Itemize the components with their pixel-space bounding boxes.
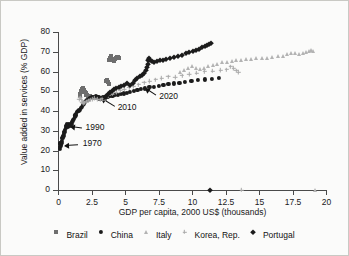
x-tick: 20 — [326, 191, 327, 195]
x-tick: 17.5 — [293, 191, 294, 195]
y-tick-label: 30 — [41, 125, 50, 136]
y-axis-label: Value added in services (% GDP) — [19, 32, 29, 172]
chart-figure: 01020304050607080 02.557.51012.51517.520… — [0, 0, 349, 256]
x-axis-label: GDP per capita, 2000 US$ (thousands) — [58, 207, 327, 217]
legend-item-italy[interactable]: Italy — [146, 230, 172, 240]
annotation-label-2010: 2010 — [118, 102, 137, 112]
legend-label: Brazil — [66, 230, 87, 240]
plus-marker-icon — [185, 232, 191, 238]
plot-area — [58, 32, 326, 190]
y-tick-label: 10 — [41, 164, 50, 175]
x-tick: 0 — [58, 191, 59, 195]
square-marker-icon — [56, 232, 62, 238]
legend-item-brazil[interactable]: Brazil — [56, 230, 87, 240]
legend-item-portugal[interactable]: Portugal — [253, 230, 295, 240]
legend-item-korea-rep[interactable]: Korea, Rep. — [185, 230, 240, 240]
x-tick: 7.5 — [159, 191, 160, 195]
legend-item-china[interactable]: China — [101, 230, 133, 240]
x-tick: 5 — [125, 191, 126, 195]
legend-label: China — [111, 230, 133, 240]
annotation-arrow-1970 — [65, 144, 78, 146]
y-tick-label: 50 — [41, 85, 50, 96]
y-tick-label: 70 — [41, 46, 50, 57]
legend-label: Korea, Rep. — [195, 230, 240, 240]
legend-label: Italy — [156, 230, 172, 240]
diamond-marker-icon — [253, 232, 259, 238]
circle-marker-icon — [101, 232, 107, 238]
x-tick: 15 — [259, 191, 260, 195]
y-tick-label: 0 — [45, 184, 50, 195]
x-tick: 2.5 — [92, 191, 93, 195]
annotation-label-1970: 1970 — [83, 138, 102, 148]
chart-legend: BrazilChinaItalyKorea, Rep.Portugal — [1, 230, 349, 240]
x-tick: 10 — [192, 191, 193, 195]
triangle-marker-icon — [146, 232, 152, 238]
annotation-label-1990: 1990 — [85, 122, 104, 132]
legend-label: Portugal — [263, 230, 295, 240]
y-tick-label: 40 — [41, 105, 50, 116]
y-tick-label: 80 — [41, 26, 50, 37]
x-tick: 12.5 — [226, 191, 227, 195]
y-tick-label: 60 — [41, 66, 50, 77]
annotation-label-2020: 2020 — [159, 91, 178, 101]
y-tick-label: 20 — [41, 145, 50, 156]
